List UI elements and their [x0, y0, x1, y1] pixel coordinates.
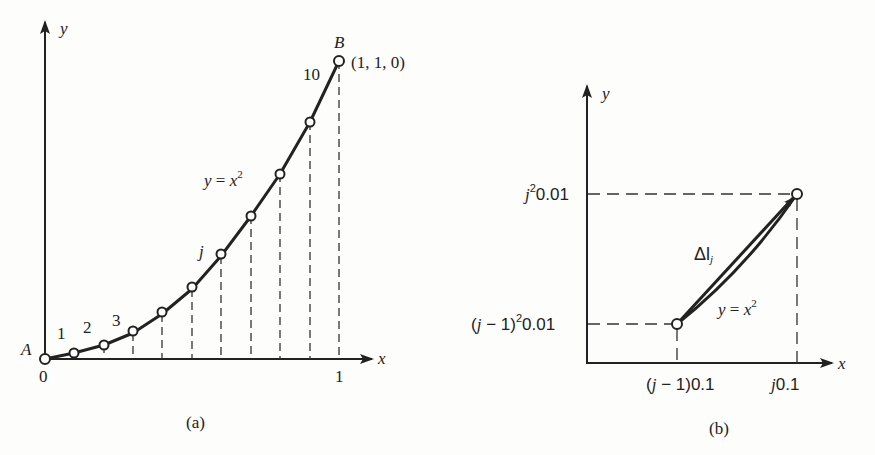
point-upper-b: [792, 189, 802, 199]
dashed-guides-b: [588, 194, 797, 363]
y-tick-lower: (j − 1)20.01: [471, 316, 555, 333]
delta-l-label: Δlj: [694, 245, 713, 263]
curve-label-b: y = x2: [718, 301, 757, 318]
x-tick-left: (j − 1)0.1: [646, 376, 715, 393]
segment-label-3: 3: [112, 312, 121, 329]
point-B-coords: (1, 1, 0): [351, 54, 405, 71]
caption-a: (a): [186, 414, 205, 431]
curve-y-equals-x-squared-a: [45, 61, 339, 359]
dashed-drop-lines-a: [104, 61, 339, 359]
curve-label-a: y = x2: [204, 172, 243, 189]
segment-label-j: j: [199, 243, 204, 260]
x-tick-one: 1: [335, 368, 344, 385]
diagram-canvas: [0, 0, 875, 455]
panel-a: [40, 22, 372, 364]
point-A: [40, 354, 50, 364]
caption-b: (b): [709, 420, 729, 437]
segment-label-10: 10: [303, 66, 320, 83]
y-tick-upper: j20.01: [525, 186, 569, 203]
point-B-label: B: [334, 34, 344, 51]
x-axis-label-a: x: [378, 350, 386, 367]
point-A-label: A: [21, 341, 31, 358]
origin-label-a: 0: [39, 368, 48, 385]
point-lower-b: [672, 319, 682, 329]
y-axis-label-a: y: [60, 20, 68, 37]
point-B: [334, 56, 344, 66]
panel-b: [586, 86, 832, 364]
segment-label-2: 2: [83, 319, 92, 336]
y-axis-label-b: y: [602, 85, 610, 102]
segment-label-1: 1: [57, 325, 66, 342]
x-axis-label-b: x: [838, 355, 846, 372]
x-tick-right: j0.1: [771, 376, 799, 393]
